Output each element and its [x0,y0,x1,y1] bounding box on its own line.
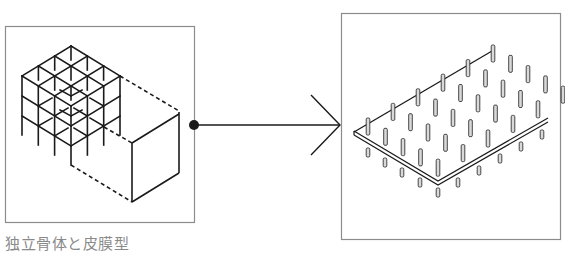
left-panel-caption: 独立骨体と皮膜型 [5,232,129,253]
post-stub [383,158,387,167]
post-stub [519,142,523,151]
skeleton-grid [22,46,120,165]
transform-arrow [189,95,340,155]
post-stub [477,166,481,175]
post [526,66,530,83]
post [444,134,448,151]
post-stub [366,148,370,157]
post [401,139,405,156]
post [434,99,438,116]
post [491,45,495,62]
diagram-canvas [0,0,565,257]
post-stub [400,168,404,177]
post [459,85,463,102]
post [561,86,565,103]
post [366,118,370,135]
post [511,115,515,132]
post-stub [418,178,422,187]
post [441,74,445,91]
post [461,145,465,162]
post [494,105,498,122]
post [544,76,548,93]
left-panel [6,27,195,223]
post [391,103,395,120]
post [409,114,413,131]
post [501,80,505,97]
post-stub [436,188,440,197]
post-stub [456,178,460,187]
post [536,101,540,118]
post-stub [498,154,502,163]
post [466,60,470,77]
post [484,70,488,87]
post [469,120,473,137]
post-grid [366,45,565,197]
post [476,95,480,112]
post [416,89,420,106]
post [451,109,455,126]
post [384,128,388,145]
right-panel-frame [342,14,561,240]
post [486,130,490,147]
post [426,124,430,141]
post [436,159,440,176]
post-stub [540,130,544,139]
post [509,55,513,72]
post [419,149,423,166]
right-panel [342,14,565,240]
post [519,91,523,108]
